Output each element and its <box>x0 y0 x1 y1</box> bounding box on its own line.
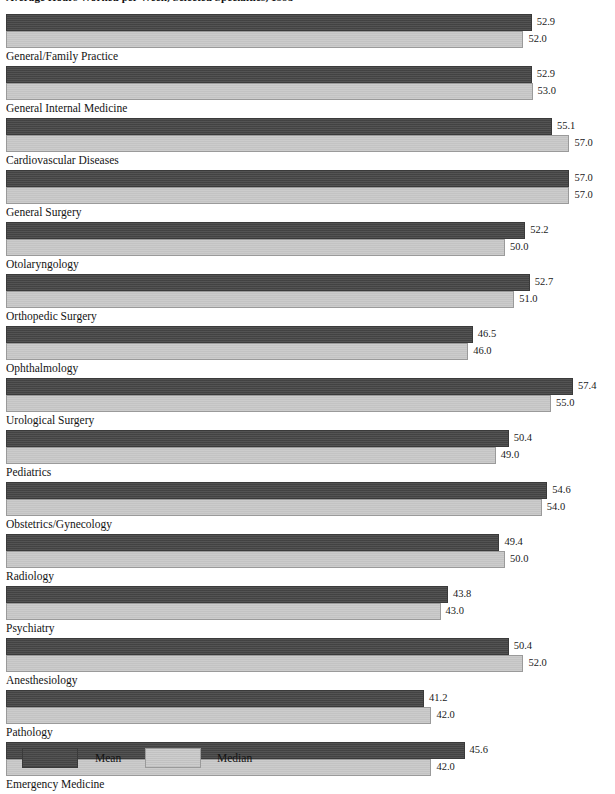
chart-row: 52.250.0Otolaryngology <box>0 222 615 274</box>
chart-row: 52.952.0General/Family Practice <box>0 14 615 66</box>
chart-row: 41.242.0Pathology <box>0 690 615 742</box>
bar-mean <box>6 274 530 291</box>
chart-row: 46.546.0Ophthalmology <box>0 326 615 378</box>
bar-mean <box>6 326 473 343</box>
chart-row: 50.449.0Pediatrics <box>0 430 615 482</box>
bar-value-median: 46.0 <box>473 345 491 356</box>
bar-value-median: 57.0 <box>574 189 592 200</box>
bar-median <box>6 707 431 724</box>
bar-mean <box>6 66 532 83</box>
chart-row: 57.455.0Urological Surgery <box>0 378 615 430</box>
bar-value-median: 42.0 <box>436 709 454 720</box>
category-label: General Surgery <box>6 205 81 219</box>
bar-mean <box>6 534 499 551</box>
chart-row: 50.452.0Anesthesiology <box>0 638 615 690</box>
category-label: Orthopedic Surgery <box>6 309 97 323</box>
category-label: Anesthesiology <box>6 673 78 687</box>
bar-mean <box>6 222 525 239</box>
bar-value-mean: 54.6 <box>552 484 570 495</box>
bar-value-mean: 52.7 <box>535 276 553 287</box>
bar-value-median: 52.0 <box>528 657 546 668</box>
bar-median <box>6 135 569 152</box>
bar-value-mean: 52.9 <box>537 68 555 79</box>
category-label: Urological Surgery <box>6 413 94 427</box>
bar-median <box>6 187 569 204</box>
legend-swatch-median <box>145 748 201 768</box>
bar-value-median: 49.0 <box>501 449 519 460</box>
category-label: General Internal Medicine <box>6 101 127 115</box>
category-label: Emergency Medicine <box>6 777 104 791</box>
chart-legend: Mean Median <box>0 748 615 778</box>
chart-row: 43.843.0Psychiatry <box>0 586 615 638</box>
category-label: Ophthalmology <box>6 361 78 375</box>
bar-value-mean: 57.0 <box>574 172 592 183</box>
bar-mean <box>6 690 424 707</box>
bar-value-mean: 52.2 <box>530 224 548 235</box>
category-label: Otolaryngology <box>6 257 79 271</box>
bar-value-mean: 49.4 <box>504 536 522 547</box>
chart-row: 52.751.0Orthopedic Surgery <box>0 274 615 326</box>
bar-value-median: 53.0 <box>538 85 556 96</box>
bar-mean <box>6 586 448 603</box>
bar-mean <box>6 118 552 135</box>
bar-mean <box>6 14 532 31</box>
chart-title: Average Hours Worked per Week, Selected … <box>6 0 294 3</box>
bar-median <box>6 31 523 48</box>
category-label: Pathology <box>6 725 53 739</box>
chart-row: 49.450.0Radiology <box>0 534 615 586</box>
legend-label-mean: Mean <box>95 751 121 765</box>
category-label: General/Family Practice <box>6 49 118 63</box>
bar-value-median: 55.0 <box>556 397 574 408</box>
bar-value-median: 54.0 <box>547 501 565 512</box>
bar-value-median: 43.0 <box>446 605 464 616</box>
bar-value-mean: 50.4 <box>514 640 532 651</box>
category-label: Cardiovascular Diseases <box>6 153 119 167</box>
bar-median <box>6 239 505 256</box>
bar-value-mean: 52.9 <box>537 16 555 27</box>
bar-median <box>6 551 505 568</box>
bar-value-median: 57.0 <box>574 137 592 148</box>
bar-mean <box>6 638 509 655</box>
category-label: Radiology <box>6 569 54 583</box>
bar-value-median: 51.0 <box>519 293 537 304</box>
chart-row: 55.157.0Cardiovascular Diseases <box>0 118 615 170</box>
bar-median <box>6 83 533 100</box>
bar-median <box>6 603 441 620</box>
bar-value-mean: 57.4 <box>578 380 596 391</box>
bar-median <box>6 655 523 672</box>
category-label: Psychiatry <box>6 621 55 635</box>
bar-value-mean: 50.4 <box>514 432 532 443</box>
chart-row: 52.953.0General Internal Medicine <box>0 66 615 118</box>
bar-median <box>6 447 496 464</box>
category-label: Obstetrics/Gynecology <box>6 517 112 531</box>
legend-swatch-mean <box>22 748 78 768</box>
bar-median <box>6 395 551 412</box>
bar-median <box>6 499 542 516</box>
bar-value-mean: 43.8 <box>453 588 471 599</box>
chart-row: 57.057.0General Surgery <box>0 170 615 222</box>
plot-area: 52.952.0General/Family Practice52.953.0G… <box>0 14 615 794</box>
bar-mean <box>6 378 573 395</box>
bar-value-median: 52.0 <box>528 33 546 44</box>
bar-value-mean: 41.2 <box>429 692 447 703</box>
bar-mean <box>6 482 547 499</box>
bar-mean <box>6 170 569 187</box>
bar-median <box>6 343 468 360</box>
legend-label-median: Median <box>217 751 252 765</box>
category-label: Pediatrics <box>6 465 51 479</box>
bar-value-mean: 46.5 <box>478 328 496 339</box>
bar-median <box>6 291 514 308</box>
bar-value-mean: 55.1 <box>557 120 575 131</box>
bar-value-median: 50.0 <box>510 553 528 564</box>
chart-row: 54.654.0Obstetrics/Gynecology <box>0 482 615 534</box>
bar-value-median: 50.0 <box>510 241 528 252</box>
bar-mean <box>6 430 509 447</box>
